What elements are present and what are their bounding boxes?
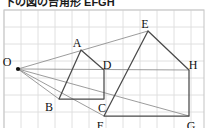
vertex-label-h: H — [189, 58, 198, 72]
ray-O-to-F — [18, 69, 104, 116]
vertex-dot-o — [16, 67, 20, 71]
figure-page: 下の図の台角形 EFGH OABCDEFGH — [0, 0, 206, 128]
vertex-label-g: G — [187, 119, 196, 128]
vertex-label-c: C — [98, 101, 106, 115]
vertex-label-e: E — [141, 17, 148, 31]
vertex-label-d: D — [103, 58, 112, 72]
page-title: 下の図の台角形 EFGH — [4, 0, 204, 7]
vertex-label-b: B — [45, 100, 53, 114]
ray-O-to-E — [18, 31, 148, 69]
vertex-point-layer — [16, 67, 20, 71]
vertex-label-o: O — [3, 55, 12, 69]
vertex-label-a: A — [73, 36, 82, 50]
geometry-figure: OABCDEFGH — [0, 7, 206, 128]
vertex-label-f: F — [97, 119, 104, 128]
pentagon-ABCD — [59, 50, 104, 99]
diagram-canvas: OABCDEFGH — [0, 7, 206, 128]
vertex-label-layer: OABCDEFGH — [3, 17, 198, 128]
ray-O-to-B — [18, 69, 59, 99]
